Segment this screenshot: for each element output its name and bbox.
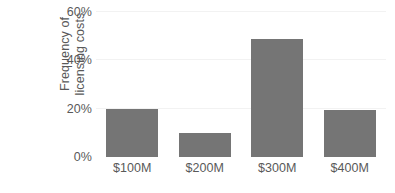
y-axis-tick-labels: 0%20%40%60% xyxy=(58,0,92,193)
y-axis-tick-label: 20% xyxy=(58,102,92,116)
bar xyxy=(324,110,376,157)
x-axis-tick-labels: $100M$200M$300M$400M xyxy=(96,161,386,185)
bar-chart: Frequency of licensing costs 0%20%40%60%… xyxy=(0,0,395,193)
gridline xyxy=(96,11,386,12)
bar xyxy=(179,133,231,157)
y-axis-tick-label: 40% xyxy=(58,53,92,67)
bar xyxy=(106,109,158,157)
y-axis-tick-label: 60% xyxy=(58,5,92,19)
gridline xyxy=(96,59,386,60)
x-axis-tick-label: $400M xyxy=(330,161,369,175)
plot-area xyxy=(96,12,386,157)
x-axis-tick-label: $300M xyxy=(258,161,297,175)
x-axis-tick-label: $200M xyxy=(185,161,224,175)
y-axis-tick-label: 0% xyxy=(58,150,92,164)
x-axis-tick-label: $100M xyxy=(113,161,152,175)
bar xyxy=(251,39,303,157)
